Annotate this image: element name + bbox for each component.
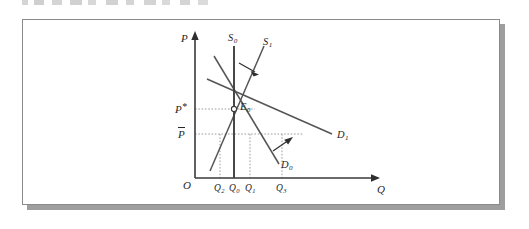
p-star-mark: * [182,101,187,112]
d0-base: D [281,159,289,170]
origin-label: O [183,180,191,191]
d1-sub: 1 [345,134,349,142]
diagram-canvas [23,20,501,206]
p-bar-base: P [178,127,185,140]
equilibrium-point-label-e0: E0 [240,102,250,114]
q0-sub: 0 [236,187,240,194]
price-axis-arrowhead [191,31,198,40]
e0-sub: 0 [246,106,250,114]
q3-sub: 3 [283,187,287,194]
figure-frame: P Q O P* P Q2 Q0 Q1 Q3 S0 S1 D0 [22,19,500,205]
curve-label-s1: S1 [263,37,272,49]
scan-edge-artifact [22,0,222,5]
price-level-label-p-star: P* [175,102,187,115]
demand-curve-d1 [207,79,332,134]
curve-label-d0: D0 [281,160,293,172]
q3-base: Q [276,183,283,193]
d0-sub: 0 [289,164,293,172]
quantity-tick-label-q2: Q2 [214,184,224,194]
quantity-tick-label-q3: Q3 [276,184,286,194]
d1-base: D [337,129,345,140]
curve-label-d1: D1 [337,130,349,142]
q1-base: Q [245,183,252,193]
quantity-axis-label: Q [377,184,385,195]
q2-base: Q [214,183,221,193]
demand-shift-arrow-head [284,137,293,145]
quantity-axis-arrowhead [371,174,380,181]
s0-sub: 0 [233,37,237,45]
curve-label-s0: S0 [228,33,237,45]
p-star-base: P [175,103,182,115]
price-level-label-p-bar: P [178,127,185,140]
equilibrium-point-marker [231,106,236,111]
q1-sub: 1 [252,187,256,194]
supply-shift-arrow-shaft [239,63,255,72]
quantity-tick-label-q0: Q0 [229,184,239,194]
price-axis-label: P [181,33,188,44]
q0-base: Q [229,183,236,193]
s1-sub: 1 [268,41,272,49]
plot-area: P Q O P* P Q2 Q0 Q1 Q3 S0 S1 D0 [23,20,501,206]
quantity-tick-label-q1: Q1 [245,184,255,194]
q2-sub: 2 [221,187,225,194]
